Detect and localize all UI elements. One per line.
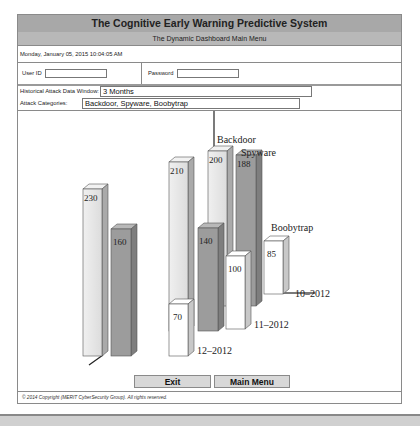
password-input[interactable] (177, 69, 239, 78)
bar-boobytrap-12-2012: 70 (169, 299, 194, 356)
3d-bar-chart: 200 188 85 210 (18, 111, 403, 373)
login-row: User ID Password (18, 63, 401, 86)
exit-button[interactable]: Exit (134, 375, 211, 388)
dashboard-frame: The Cognitive Early Warning Predictive S… (17, 14, 402, 404)
bar-backdoor-12-2012: 230 (83, 184, 108, 356)
datetime-display: Monday, January 05, 2015 10:04:05 AM (18, 46, 401, 63)
copyright-footer: © 2014 Copyright (MERIT CyberSecurity Gr… (18, 391, 401, 403)
svg-text:200: 200 (209, 155, 223, 165)
series-label-backdoor: Backdoor (217, 134, 257, 145)
user-id-label: User ID (22, 70, 42, 76)
main-menu-button[interactable]: Main Menu (214, 375, 290, 388)
svg-text:188: 188 (237, 159, 251, 169)
svg-text:70: 70 (173, 312, 183, 322)
series-label-boobytrap: Boobytrap (271, 222, 313, 233)
password-label: Password (148, 70, 173, 76)
category-label-11-2012: 11–2012 (254, 319, 289, 330)
attack-chart: 200 188 85 210 (18, 111, 401, 373)
svg-text:230: 230 (84, 193, 98, 203)
bar-boobytrap-11-2012: 100 (226, 251, 251, 329)
history-window-field[interactable]: 3 Months (100, 86, 312, 97)
svg-text:160: 160 (113, 237, 127, 247)
attack-categories-row: Attack Categories: Backdoor, Spyware, Bo… (18, 97, 401, 111)
svg-text:100: 100 (228, 264, 242, 274)
attack-categories-field[interactable]: Backdoor, Spyware, Boobytrap (82, 98, 300, 109)
series-label-spyware: Spyware (241, 147, 277, 158)
front-axis-stub (89, 355, 103, 365)
category-label-12-2012: 12–2012 (197, 345, 232, 356)
history-window-label: Historical Attack Data Window: (20, 85, 99, 97)
user-id-cell: User ID (18, 63, 142, 84)
bar-spyware-12-2012: 160 (111, 224, 137, 356)
attack-categories-label: Attack Categories: (20, 97, 67, 110)
user-id-input[interactable] (45, 69, 107, 78)
bottom-divider (0, 414, 420, 426)
bar-spyware-11-2012: 140 (198, 223, 224, 331)
history-window-row: Historical Attack Data Window: 3 Months (18, 85, 401, 97)
category-label-10-2012: 10–2012 (295, 288, 330, 299)
svg-text:85: 85 (267, 249, 277, 259)
svg-text:210: 210 (170, 166, 184, 176)
page-subtitle: The Dynamic Dashboard Main Menu (18, 32, 401, 46)
svg-text:140: 140 (199, 236, 213, 246)
bar-boobytrap-10-2012: 85 (264, 236, 289, 294)
password-cell: Password (142, 63, 397, 84)
app-title: The Cognitive Early Warning Predictive S… (18, 15, 401, 33)
